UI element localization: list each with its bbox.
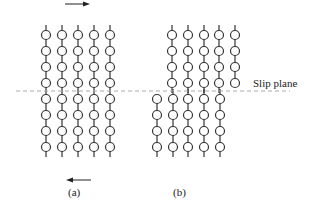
- atom: [153, 127, 162, 136]
- atom: [90, 63, 99, 72]
- atoms: [42, 31, 240, 152]
- atom: [184, 95, 193, 104]
- atom: [200, 63, 209, 72]
- atom: [216, 143, 225, 152]
- atom: [90, 47, 99, 56]
- atom: [184, 79, 193, 88]
- atom: [168, 47, 177, 56]
- atom: [216, 95, 225, 104]
- atom: [42, 63, 51, 72]
- atom: [90, 31, 99, 40]
- slip-plane-diagram: [0, 0, 312, 210]
- atom: [74, 79, 83, 88]
- atom: [42, 47, 51, 56]
- atom: [42, 79, 51, 88]
- atom: [106, 63, 115, 72]
- atom: [231, 47, 240, 56]
- atom: [106, 31, 115, 40]
- atom: [184, 111, 193, 120]
- atom: [42, 143, 51, 152]
- panel-a-caption: (a): [68, 186, 80, 198]
- atom: [184, 143, 193, 152]
- atom: [184, 31, 193, 40]
- atom: [90, 111, 99, 120]
- atom: [58, 143, 67, 152]
- atom: [58, 111, 67, 120]
- atom: [58, 31, 67, 40]
- atom: [58, 63, 67, 72]
- atom: [106, 127, 115, 136]
- atom: [106, 111, 115, 120]
- atom: [153, 111, 162, 120]
- shear-arrow-bottom: [66, 178, 91, 183]
- atom: [74, 127, 83, 136]
- atom: [231, 31, 240, 40]
- slip-plane-label: Slip plane: [253, 77, 297, 89]
- atom: [200, 127, 209, 136]
- atom: [215, 79, 224, 88]
- atom: [215, 31, 224, 40]
- atom: [231, 79, 240, 88]
- atom: [106, 95, 115, 104]
- atom: [216, 111, 225, 120]
- atom: [58, 79, 67, 88]
- atom: [168, 79, 177, 88]
- atom: [74, 95, 83, 104]
- atom: [153, 95, 162, 104]
- atom: [200, 31, 209, 40]
- atom: [153, 143, 162, 152]
- atom: [74, 47, 83, 56]
- atom: [106, 79, 115, 88]
- atom: [200, 111, 209, 120]
- atom: [200, 47, 209, 56]
- atom: [169, 111, 178, 120]
- atom: [58, 47, 67, 56]
- atom: [74, 143, 83, 152]
- atom: [74, 111, 83, 120]
- atom: [58, 95, 67, 104]
- atom: [169, 127, 178, 136]
- atom: [169, 143, 178, 152]
- panel-b-caption: (b): [173, 186, 186, 198]
- atom: [106, 143, 115, 152]
- atom: [215, 63, 224, 72]
- atom: [168, 31, 177, 40]
- atom: [215, 47, 224, 56]
- atom: [58, 127, 67, 136]
- atom: [106, 47, 115, 56]
- atom: [74, 63, 83, 72]
- atom: [90, 79, 99, 88]
- atom: [184, 127, 193, 136]
- atom: [184, 47, 193, 56]
- shear-arrow-top: [65, 2, 90, 7]
- atom: [74, 31, 83, 40]
- atom: [169, 95, 178, 104]
- atom: [200, 79, 209, 88]
- atom: [231, 63, 240, 72]
- atom: [42, 127, 51, 136]
- atom: [200, 143, 209, 152]
- atom: [90, 95, 99, 104]
- atom: [42, 111, 51, 120]
- atom: [216, 127, 225, 136]
- atom: [168, 63, 177, 72]
- atom: [42, 31, 51, 40]
- atom: [200, 95, 209, 104]
- atom: [90, 127, 99, 136]
- atom: [184, 63, 193, 72]
- atom: [90, 143, 99, 152]
- atom: [42, 95, 51, 104]
